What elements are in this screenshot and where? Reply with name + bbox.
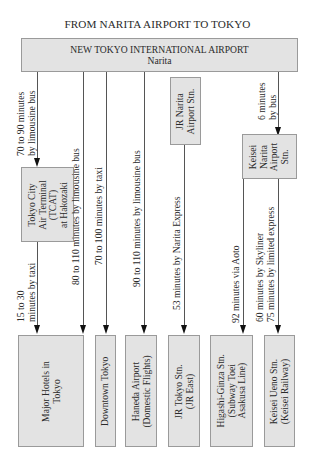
arrow-icon — [34, 158, 40, 167]
destination-jr-tokyo: JR Tokyo Stn.(JR East) — [168, 335, 200, 447]
route-label-to-keisei: 6 minutesby bus — [257, 82, 278, 120]
destination-keisei-ueno: Keisei Ueno Stn.(Keisei Railway) — [264, 335, 295, 447]
arrow-icon — [240, 325, 246, 334]
route-line-tcat-to-hotels — [37, 242, 38, 328]
diagram-title: FROM NARITA AIRPORT TO TOKYO — [0, 18, 315, 30]
arrow-icon — [181, 325, 187, 334]
route-label-tcat-to-hotels: 15 to 30minutes by taxi — [16, 263, 37, 322]
keisei-narita-station-box: KeiseiNarita AirportStn. — [242, 134, 297, 179]
route-label-to-tcat: 70 to 90 minutesby limousine bus — [16, 90, 37, 156]
route-line-to-keisei — [278, 72, 279, 130]
destination-higashi-ginza: Higashi-Ginza Stn.(Subway ToeiAsakusa Li… — [210, 335, 253, 447]
route-line-taxi-to-downtown — [106, 72, 107, 328]
route-line-bus-to-hotels — [83, 72, 84, 328]
arrow-icon — [34, 325, 40, 334]
origin-name: NEW TOKYO INTERNATIONAL AIRPORT — [22, 44, 297, 55]
route-line-to-haneda — [144, 72, 145, 328]
route-label-jr-to-tokyo: 53 minutes by Narita Express — [172, 196, 183, 310]
route-label-downtown-taxi: 70 to 100 minutes by taxi — [94, 167, 105, 265]
route-line-to-tcat — [37, 72, 38, 162]
arrow-icon — [103, 325, 109, 334]
route-label-downtown-bus: 80 to 110 minutes by limousine bus — [71, 148, 82, 285]
arrow-icon — [141, 325, 147, 334]
destination-downtown-tokyo: Downtown Tokyo — [95, 335, 116, 447]
route-line-keisei-to-ueno — [278, 179, 279, 328]
origin-subname: Narita — [22, 55, 297, 66]
arrow-icon — [275, 325, 281, 334]
route-line-keisei-to-higashi — [243, 179, 244, 328]
route-label-keisei-to-ueno: 60 minutes by Skyliner75 minutes by limi… — [255, 207, 276, 322]
route-label-keisei-to-higashi: 92 minutes via Aoto — [231, 245, 242, 323]
origin-narita-airport-box: NEW TOKYO INTERNATIONAL AIRPORT Narita — [21, 38, 298, 72]
route-line-jr-to-tokyo — [184, 145, 185, 328]
destination-haneda-airport: Haneda Airport(Domestic Flights) — [125, 335, 157, 447]
arrow-icon — [80, 325, 86, 334]
destination-major-hotels: Major Hotels inTokyo — [18, 335, 84, 447]
jr-narita-station-box: JR NaritaAirport Stn. — [170, 77, 201, 145]
route-label-to-haneda: 90 to 110 minutes by limousine bus — [132, 150, 143, 287]
tcat-box: Tokyo CityAir Terminal (TCAT)at Hakozaki — [21, 167, 74, 242]
